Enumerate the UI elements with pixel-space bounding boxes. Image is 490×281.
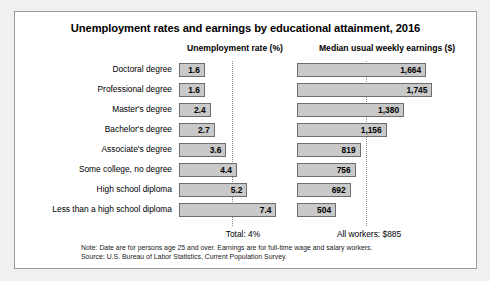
note-text: Note: Date are for persons age 25 and ov…: [81, 244, 372, 251]
bar-value-earnings: 692: [332, 184, 346, 196]
row-label-some-college-no-degree: Some college, no degree: [15, 164, 172, 174]
row-label-professional-degree: Professional degree: [15, 84, 172, 94]
chart-row: Some college, no degree4.4756: [15, 161, 476, 181]
chart-title: Unemployment rates and earnings by educa…: [15, 22, 476, 34]
bar-value-unemployment: 7.4: [260, 204, 272, 216]
column-header-unemployment-rate: Unemployment rate (%): [165, 43, 305, 53]
bar-value-earnings: 1,380: [378, 104, 399, 116]
row-label-bachelor-s-degree: Bachelor's degree: [15, 124, 172, 134]
bar-value-earnings: 756: [337, 164, 351, 176]
bar-earnings: 819: [297, 143, 361, 157]
bar-unemployment: 2.7: [179, 123, 215, 137]
bar-earnings: 1,156: [297, 123, 387, 137]
bar-value-earnings: 1,664: [400, 64, 421, 76]
bar-unemployment: 3.6: [179, 143, 226, 157]
bar-earnings: 1,380: [297, 103, 404, 117]
row-label-doctoral-degree: Doctoral degree: [15, 64, 172, 74]
chart-row: Less than a high school diploma7.4504: [15, 201, 476, 221]
bar-value-unemployment: 3.6: [210, 144, 222, 156]
total-unemployment-label: Total: 4%: [173, 229, 313, 239]
bar-unemployment: 4.4: [179, 163, 237, 177]
bar-value-unemployment: 2.7: [198, 124, 210, 136]
bar-earnings: 1,745: [297, 83, 432, 97]
bar-value-unemployment: 1.6: [188, 64, 200, 76]
bar-value-unemployment: 4.4: [220, 164, 232, 176]
bar-earnings: 1,664: [297, 63, 426, 77]
bar-unemployment: 5.2: [179, 183, 247, 197]
plot-area: Doctoral degree1.61,664Professional degr…: [15, 61, 476, 226]
row-label-less-than-a-high-school-diploma: Less than a high school diploma: [15, 204, 172, 214]
bar-unemployment: 1.6: [179, 63, 205, 77]
bar-value-earnings: 819: [342, 144, 356, 156]
chart-row: Bachelor's degree2.71,156: [15, 121, 476, 141]
row-label-high-school-diploma: High school diploma: [15, 184, 172, 194]
bar-value-earnings: 504: [317, 204, 331, 216]
chart-row: Master's degree2.41,380: [15, 101, 476, 121]
column-header-median-earnings: Median usual weekly earnings ($): [287, 43, 487, 53]
chart-row: High school diploma5.2692: [15, 181, 476, 201]
chart-row: Doctoral degree1.61,664: [15, 61, 476, 81]
bar-value-unemployment: 2.4: [194, 104, 206, 116]
bar-value-earnings: 1,156: [361, 124, 382, 136]
bar-value-unemployment: 1.6: [188, 84, 200, 96]
chart-row: Associate's degree3.6819: [15, 141, 476, 161]
chart-row: Professional degree1.61,745: [15, 81, 476, 101]
bar-unemployment: 1.6: [179, 83, 205, 97]
row-label-master-s-degree: Master's degree: [15, 104, 172, 114]
bar-value-unemployment: 5.2: [231, 184, 243, 196]
bar-value-earnings: 1,745: [406, 84, 427, 96]
bar-unemployment: 7.4: [179, 203, 276, 217]
bar-earnings: 692: [297, 183, 351, 197]
source-text: Source: U.S. Bureau of Labor Statistics,…: [81, 253, 287, 260]
total-earnings-label: All workers: $885: [299, 229, 439, 239]
bar-earnings: 504: [297, 203, 336, 217]
bar-unemployment: 2.4: [179, 103, 211, 117]
chart-container: Unemployment rates and earnings by educa…: [14, 11, 477, 269]
bar-earnings: 756: [297, 163, 356, 177]
row-label-associate-s-degree: Associate's degree: [15, 144, 172, 154]
